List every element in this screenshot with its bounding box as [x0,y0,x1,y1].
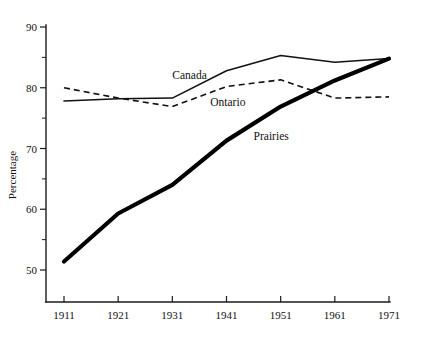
x-tick-label-1921: 1921 [107,309,129,321]
chart-container: 5060708090 1911192119311941195119611971 … [0,0,425,338]
line-chart: 5060708090 1911192119311941195119611971 … [0,0,425,338]
series-line-prairies [64,59,389,262]
y-axis-tick-labels: 5060708090 [26,21,38,276]
x-tick-label-1911: 1911 [53,309,75,321]
chart-series-labels: CanadaOntarioPrairies [172,69,289,142]
y-tick-label-60: 60 [26,203,38,215]
series-label-canada: Canada [172,69,206,81]
y-axis-title: Percentage [6,151,18,199]
x-axis-tick-labels: 1911192119311941195119611971 [53,309,400,321]
x-tick-label-1951: 1951 [270,309,292,321]
series-label-prairies: Prairies [254,130,290,142]
chart-series-layer [64,56,389,262]
x-tick-label-1931: 1931 [161,309,183,321]
x-tick-label-1941: 1941 [216,309,238,321]
y-tick-label-50: 50 [26,264,38,276]
y-tick-label-90: 90 [26,21,38,33]
x-axis-ticks [64,296,389,302]
series-label-ontario: Ontario [210,96,245,108]
y-tick-label-80: 80 [26,82,38,94]
y-tick-label-70: 70 [26,143,38,155]
y-axis-ticks [40,27,46,270]
x-tick-label-1961: 1961 [324,309,346,321]
x-tick-label-1971: 1971 [378,309,400,321]
chart-axes [46,25,390,302]
